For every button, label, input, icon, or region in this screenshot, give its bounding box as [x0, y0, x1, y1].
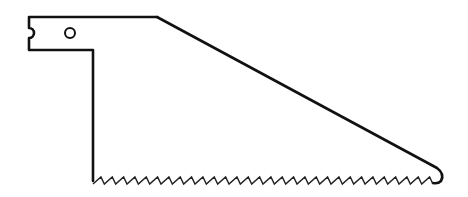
- mounting-hole-icon: [65, 28, 75, 38]
- blade-outline: [29, 17, 157, 181]
- blade-back-edge: [157, 17, 442, 183]
- cutting-teeth: [93, 177, 433, 184]
- saw-blade-drawing: [0, 0, 468, 197]
- figure-canvas: [0, 0, 468, 197]
